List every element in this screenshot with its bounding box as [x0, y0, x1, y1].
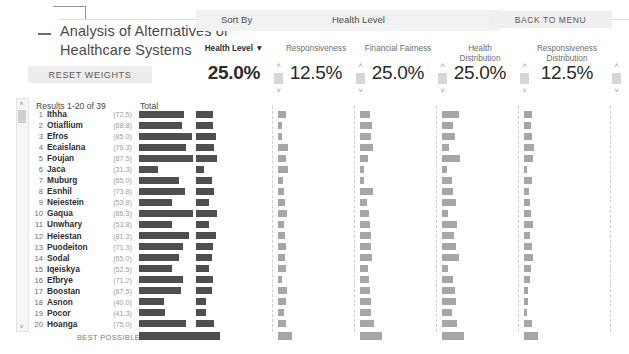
criterion-name-4[interactable]: ResponsivenessDistribution: [524, 44, 610, 64]
reset-weights-button[interactable]: RESET WEIGHTS: [28, 66, 152, 83]
row-score: (76.3): [104, 142, 132, 153]
scroll-up-icon[interactable]: ˄: [17, 99, 26, 108]
criterion-name-0[interactable]: Health Level ▼: [196, 44, 272, 54]
table-row[interactable]: 1Ithha(72.5): [0, 109, 629, 120]
row-criterion-bar-1: [278, 188, 284, 195]
row-criterion-bar-2: [360, 188, 373, 195]
row-criterion-bar-1: [278, 177, 283, 184]
back-to-menu-button[interactable]: BACK TO MENU: [489, 11, 612, 28]
row-rank: 5: [30, 153, 43, 164]
table-row[interactable]: 17Boostan(67.5): [0, 286, 629, 297]
row-score: (65.0): [104, 175, 132, 186]
row-rank: 20: [30, 319, 43, 330]
table-row[interactable]: 7Muburg(65.0): [0, 175, 629, 186]
row-total-bar: [139, 210, 193, 217]
row-total-bar: [139, 232, 189, 239]
spinner-down-icon-4[interactable]: ˅: [612, 87, 621, 95]
row-score: (67.5): [104, 286, 132, 297]
row-name[interactable]: Efros: [47, 131, 68, 142]
criterion-weight-0[interactable]: 25.0%: [196, 62, 272, 84]
analysis-app: Analysis of Alternatives of Healthcare S…: [0, 0, 629, 354]
row-name[interactable]: Muburg: [47, 175, 77, 186]
row-criterion-bar-3: [442, 133, 455, 140]
table-row[interactable]: 14Sodal(65.0): [0, 253, 629, 264]
spinner-down-icon-3[interactable]: ˅: [520, 87, 529, 95]
row-total-bar: [139, 144, 186, 151]
row-total-bar: [139, 287, 181, 294]
row-criterion-bar-4: [524, 166, 527, 173]
row-name[interactable]: Neiestein: [47, 197, 84, 208]
row-rank: 13: [30, 242, 43, 253]
spinner-up-icon-4[interactable]: ˄: [612, 62, 621, 70]
table-row[interactable]: 12Heiestan(81.3): [0, 231, 629, 242]
row-name[interactable]: Ecaislana: [47, 142, 85, 153]
row-name[interactable]: Heiestan: [47, 231, 82, 242]
row-criterion-bar-2: [360, 243, 371, 250]
row-score: (53.8): [104, 219, 132, 230]
best-possible-bar-2: [360, 332, 382, 340]
row-rank: 15: [30, 264, 43, 275]
row-name[interactable]: Puodeiton: [47, 242, 88, 253]
row-score: (86.3): [104, 208, 132, 219]
row-criterion-bar-4: [524, 133, 532, 140]
row-name[interactable]: Gaqua: [47, 208, 73, 219]
spinner-down-icon-2[interactable]: ˅: [438, 87, 447, 95]
row-criterion-bar-4: [524, 320, 532, 327]
row-score: (85.0): [104, 131, 132, 142]
row-name[interactable]: Boostan: [47, 286, 80, 297]
row-name[interactable]: Asnon: [47, 297, 73, 308]
row-name[interactable]: Ithha: [47, 109, 67, 120]
row-total-bar: [139, 188, 185, 195]
row-criterion-bar-1: [278, 155, 286, 162]
table-row[interactable]: 8Esnhil(73.8): [0, 186, 629, 197]
table-row[interactable]: 20Hoanga(75.0): [0, 319, 629, 330]
sort-by-value[interactable]: Health Level: [332, 14, 385, 25]
row-name[interactable]: Unwhary: [47, 219, 82, 230]
criterion-name-1[interactable]: Responsiveness: [278, 44, 354, 54]
table-row[interactable]: 18Asnon(40.0): [0, 297, 629, 308]
criterion-weight-2[interactable]: 25.0%: [360, 62, 436, 84]
table-row[interactable]: 11Unwhary(53.8): [0, 219, 629, 230]
criterion-weight-3[interactable]: 25.0%: [442, 62, 518, 84]
criterion-name-3[interactable]: HealthDistribution: [442, 44, 518, 64]
row-name[interactable]: Efbrye: [47, 275, 73, 286]
row-criterion-bar-4: [524, 122, 531, 129]
spinner-down-icon-0[interactable]: ˅: [274, 87, 283, 95]
table-row[interactable]: 4Ecaislana(76.3): [0, 142, 629, 153]
table-row[interactable]: 16Efbrye(71.2): [0, 275, 629, 286]
row-name[interactable]: Jaca: [47, 164, 65, 175]
row-score: (73.8): [104, 186, 132, 197]
row-name[interactable]: Hoanga: [47, 319, 77, 330]
row-name[interactable]: Foujan: [47, 153, 74, 164]
spinner-track-4[interactable]: [612, 73, 621, 84]
row-rank: 7: [30, 175, 43, 186]
row-name[interactable]: Iqeiskya: [47, 264, 80, 275]
weight-spinner-4[interactable]: ˄˅: [611, 62, 622, 95]
table-row[interactable]: 2Otiaflium(68.8): [0, 120, 629, 131]
row-name[interactable]: Sodal: [47, 253, 70, 264]
table-row[interactable]: 9Neiestein(53.8): [0, 197, 629, 208]
table-row[interactable]: 15Iqeiskya(52.5): [0, 264, 629, 275]
table-row[interactable]: 3Efros(85.0): [0, 131, 629, 142]
row-criterion-bar-2: [360, 166, 364, 173]
table-row[interactable]: 19Pocor(41.3): [0, 308, 629, 319]
table-row[interactable]: 13Puodeiton(71.3): [0, 242, 629, 253]
criterion-weight-1[interactable]: 12.5%: [278, 62, 354, 84]
row-rank: 17: [30, 286, 43, 297]
table-row[interactable]: 6Jaca(31.3): [0, 164, 629, 175]
spinner-down-icon-1[interactable]: ˅: [356, 87, 365, 95]
row-name[interactable]: Esnhil: [47, 186, 72, 197]
row-rank: 1: [30, 109, 43, 120]
table-row[interactable]: 10Gaqua(86.3): [0, 208, 629, 219]
row-total-bar: [139, 265, 172, 272]
criterion-name-2[interactable]: Financial Fairness: [360, 44, 436, 54]
row-name[interactable]: Pocor: [47, 308, 71, 319]
minimize-icon[interactable]: [38, 33, 51, 35]
criterion-weight-4[interactable]: 12.5%: [524, 62, 610, 84]
row-criterion-bar-3: [442, 243, 456, 250]
row-name[interactable]: Otiaflium: [47, 120, 83, 131]
table-row[interactable]: 5Foujan(87.5): [0, 153, 629, 164]
row-criterion-bar-0: [196, 221, 209, 228]
row-criterion-bar-2: [360, 122, 372, 129]
row-criterion-bar-2: [360, 276, 369, 283]
